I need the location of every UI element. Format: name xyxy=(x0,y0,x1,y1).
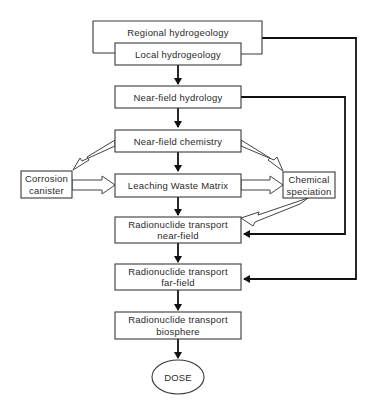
svg-text:far-field: far-field xyxy=(161,277,194,288)
node-near-field-chemistry: Near-field chemistry xyxy=(115,130,241,152)
svg-text:Radionuclide transport: Radionuclide transport xyxy=(128,266,228,277)
svg-text:speciation: speciation xyxy=(287,186,332,197)
svg-text:Near-field chemistry: Near-field chemistry xyxy=(134,136,223,147)
regional-to-farfield-connector xyxy=(244,38,356,279)
svg-text:Regional hydrogeology: Regional hydrogeology xyxy=(127,27,228,38)
node-radionuclide-transport-near-field: Radionuclide transport near-field xyxy=(115,217,241,243)
flow-diagram: Regional hydrogeology Local hydrogeology… xyxy=(0,0,373,418)
node-radionuclide-transport-biosphere: Radionuclide transport biosphere xyxy=(115,312,241,339)
svg-text:Chemical: Chemical xyxy=(288,174,329,185)
svg-text:Corrosion: Corrosion xyxy=(25,173,68,184)
svg-text:DOSE: DOSE xyxy=(164,372,192,383)
svg-text:Near-field hydrology: Near-field hydrology xyxy=(133,92,222,103)
svg-text:biosphere: biosphere xyxy=(156,326,200,337)
node-radionuclide-transport-far-field: Radionuclide transport far-field xyxy=(115,264,241,290)
node-corrosion-canister: Corrosion canister xyxy=(21,171,72,198)
node-near-field-hydrology: Near-field hydrology xyxy=(115,86,241,108)
svg-text:Leaching Waste Matrix: Leaching Waste Matrix xyxy=(128,180,229,191)
node-leaching-waste-matrix: Leaching Waste Matrix xyxy=(115,174,241,197)
svg-text:Radionuclide transport: Radionuclide transport xyxy=(128,219,228,230)
svg-text:canister: canister xyxy=(29,185,64,196)
svg-text:Radionuclide transport: Radionuclide transport xyxy=(128,314,228,325)
node-local-hydrogeology: Local hydrogeology xyxy=(115,43,241,65)
node-chemical-speciation: Chemical speciation xyxy=(283,172,335,198)
svg-text:Local hydrogeology: Local hydrogeology xyxy=(135,49,221,60)
svg-text:near-field: near-field xyxy=(157,230,199,241)
node-dose: DOSE xyxy=(152,360,204,394)
